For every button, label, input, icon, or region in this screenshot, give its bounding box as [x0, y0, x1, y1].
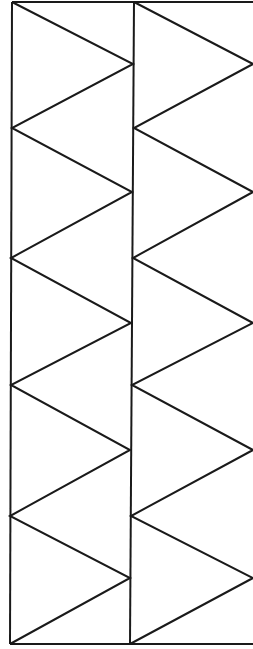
right-zigzag: [130, 2, 253, 644]
frame-left-line: [10, 2, 12, 644]
zigzag-diagram: [0, 0, 253, 649]
left-zigzag: [10, 2, 133, 644]
